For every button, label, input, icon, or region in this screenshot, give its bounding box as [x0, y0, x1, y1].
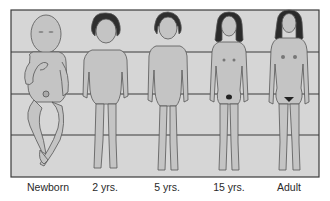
- label-newborn: Newborn: [27, 181, 69, 193]
- label-two-years: 2 yrs.: [92, 181, 118, 193]
- label-adult: Adult: [277, 181, 301, 193]
- label-fifteen-years: 15 yrs.: [213, 181, 245, 193]
- growth-proportions-illustration: [0, 0, 330, 201]
- label-five-years: 5 yrs.: [154, 181, 180, 193]
